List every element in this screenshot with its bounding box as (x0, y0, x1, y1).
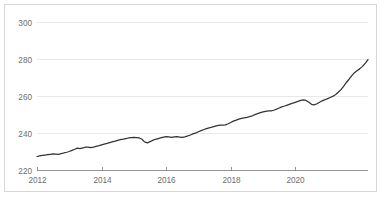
y-tick-label-280: 280 (18, 56, 32, 65)
x-tick-label-2016: 2016 (157, 176, 176, 185)
x-tick-label-2020: 2020 (286, 176, 305, 185)
y-axis-tick-labels: 220240260280300 (18, 19, 32, 176)
data-series-group (37, 60, 368, 157)
chart-figure: 220240260280300 20122014201620182020 (0, 0, 384, 202)
y-tick-label-220: 220 (18, 167, 32, 176)
y-tick-label-240: 240 (18, 130, 32, 139)
x-tick-label-2012: 2012 (28, 176, 47, 185)
x-tick-label-2018: 2018 (222, 176, 241, 185)
line-chart-plot: 220240260280300 20122014201620182020 (0, 0, 384, 202)
series-line-index (37, 60, 368, 157)
gridline-group (37, 23, 368, 134)
x-tick-label-2014: 2014 (93, 176, 112, 185)
y-tick-label-300: 300 (18, 19, 32, 28)
x-axis-tick-labels: 20122014201620182020 (28, 176, 305, 185)
x-axis (37, 167, 368, 171)
y-tick-label-260: 260 (18, 93, 32, 102)
